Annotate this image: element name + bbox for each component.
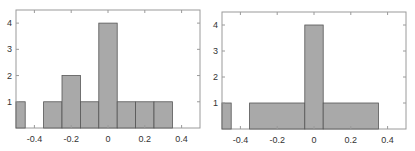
x-tick-label: -0.4 [233, 135, 249, 145]
histogram-bar [222, 103, 231, 129]
x-tick-label: 0 [105, 134, 110, 144]
y-tick-label: 1 [213, 98, 218, 108]
y-tick-label: 4 [213, 20, 218, 30]
histogram-bar [117, 102, 135, 128]
x-tick-label: 0.2 [139, 134, 152, 144]
histogram-bar [99, 23, 117, 128]
histogram-figure: -0.4-0.200.20.41234 -0.4-0.200.20.41234 [0, 0, 415, 151]
histogram-bar [44, 102, 62, 128]
histogram-bar [323, 103, 378, 129]
histogram-bar [16, 102, 25, 128]
x-tick-label: 0 [311, 135, 316, 145]
histogram-bar [154, 102, 172, 128]
histogram-bar [62, 76, 80, 128]
histogram-bar [250, 103, 305, 129]
y-tick-label: 2 [7, 71, 12, 81]
y-tick-label: 1 [7, 97, 12, 107]
y-tick-label: 2 [213, 72, 218, 82]
y-tick-label: 4 [7, 18, 12, 28]
x-tick-label: 0.2 [345, 135, 358, 145]
y-tick-label: 3 [213, 46, 218, 56]
histogram-left: -0.4-0.200.20.41234 [7, 10, 200, 144]
x-tick-label: -0.2 [269, 135, 285, 145]
y-tick-label: 3 [7, 44, 12, 54]
histogram-right: -0.4-0.200.20.41234 [213, 12, 406, 145]
x-tick-label: -0.4 [27, 134, 43, 144]
histogram-bar [136, 102, 154, 128]
x-tick-label: 0.4 [381, 135, 394, 145]
x-tick-label: 0.4 [175, 134, 188, 144]
histogram-bar [80, 102, 98, 128]
histogram-bar [305, 25, 323, 129]
x-tick-label: -0.2 [63, 134, 79, 144]
